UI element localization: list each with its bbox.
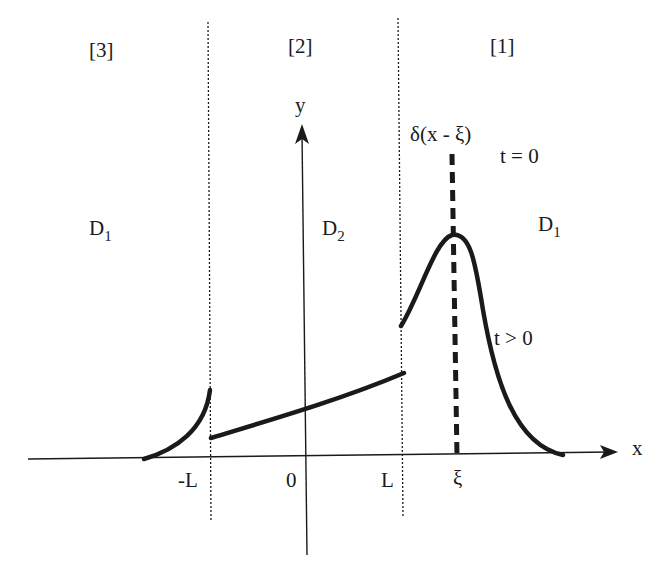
curve-region-3 [144, 390, 210, 459]
diagram-canvas [0, 0, 670, 584]
tick-zero: 0 [286, 470, 297, 491]
region-3-label: [3] [89, 40, 114, 61]
region-1-label: [1] [490, 36, 515, 57]
boundary-right-dotted [398, 18, 403, 516]
domain-label-region-2: D2 [322, 218, 345, 239]
x-axis [28, 452, 610, 459]
delta-function-dashed [452, 154, 457, 456]
tick-neg-L: -L [178, 470, 198, 491]
curve-region-2 [211, 373, 404, 438]
y-axis [302, 133, 307, 555]
delta-function-label: δ(x - ξ) [410, 124, 471, 145]
x-axis-label: x [632, 438, 643, 459]
tick-xi: ξ [453, 468, 462, 489]
y-axis-label: y [295, 95, 306, 116]
region-2-label: [2] [288, 36, 313, 57]
t-zero-label: t = 0 [500, 146, 539, 167]
boundary-left-dotted [208, 22, 211, 520]
curve-region-1 [401, 235, 563, 455]
t-positive-label: t > 0 [494, 328, 533, 349]
domain-label-region-3: D1 [89, 218, 112, 239]
domain-label-region-1: D1 [538, 214, 561, 235]
tick-L: L [381, 470, 394, 491]
